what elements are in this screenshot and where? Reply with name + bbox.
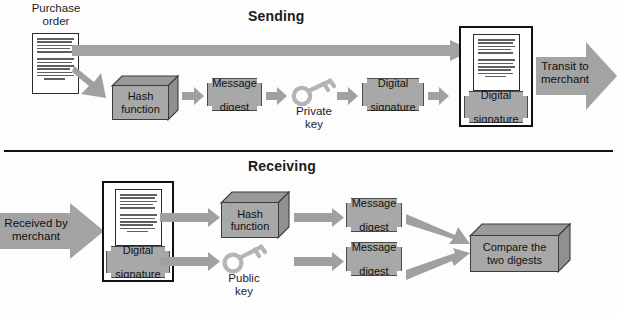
message-digest-line1: Message	[212, 77, 257, 89]
hash-function-label: Hash function	[112, 85, 169, 120]
transit-line1: Transit to	[539, 60, 591, 73]
hash-function-line2: function	[121, 103, 160, 115]
transit-label: Transit to merchant	[539, 60, 591, 86]
compare-digests-box: Compare the two digests	[470, 224, 570, 272]
digital-signature-line2: signature	[370, 101, 415, 113]
key-icon	[291, 77, 335, 107]
private-key-line1: Private	[278, 105, 350, 118]
arrow-right-icon	[337, 87, 358, 105]
message-digest-bottom-line2: digest	[352, 265, 397, 277]
digital-signature-plaque: Digital signature	[464, 91, 528, 123]
signed-doc-signature-line2: signature	[473, 113, 518, 125]
arrow-right-icon	[266, 87, 287, 105]
section-title-sending: Sending	[248, 8, 305, 24]
purchase-order-label-line2: order	[12, 15, 100, 28]
arrow-right-icon	[294, 252, 344, 271]
arrow-right-icon	[160, 252, 220, 271]
hash-function-r-line1: Hash	[237, 208, 263, 220]
message-digest-plaque-bottom: Message digest	[346, 242, 402, 276]
section-title-receiving: Receiving	[248, 158, 316, 174]
document-icon	[115, 189, 162, 246]
message-digest-plaque: Message digest	[207, 78, 262, 111]
message-digest-top-line1: Message	[352, 197, 397, 209]
private-key-label: Private key	[278, 105, 350, 130]
hash-function-line1: Hash	[128, 90, 154, 102]
hash-function-label: Hash function	[221, 202, 279, 238]
received-line1: Received by	[3, 217, 69, 230]
private-key-line2: key	[278, 118, 350, 131]
arrow-down-right-icon	[406, 214, 470, 246]
received-signature-line2: signature	[115, 268, 160, 280]
message-digest-plaque-top: Message digest	[346, 198, 402, 232]
arrow-right-icon	[428, 87, 449, 105]
purchase-order-label: Purchase order	[12, 2, 100, 27]
hash-function-box: Hash function	[221, 192, 289, 238]
digital-signature-plaque: Digital signature	[362, 78, 424, 111]
public-key-label: Public key	[208, 272, 280, 297]
message-digest-top-line2: digest	[352, 221, 397, 233]
hash-function-r-line2: function	[231, 220, 270, 232]
public-key-line2: key	[208, 285, 280, 298]
arrow-right-icon	[160, 208, 220, 227]
purchase-order-label-line1: Purchase	[12, 2, 100, 15]
digital-signature-line1: Digital	[370, 77, 415, 89]
compare-digests-label: Compare the two digests	[470, 235, 559, 272]
message-digest-line2: digest	[212, 101, 257, 113]
compare-line1: Compare the	[483, 241, 547, 253]
hash-function-box: Hash function	[112, 76, 178, 120]
arrow-right-icon	[72, 40, 472, 62]
section-divider	[4, 150, 613, 152]
arrow-right-icon	[294, 208, 344, 227]
transit-line2: merchant	[539, 73, 591, 86]
compare-line2: two digests	[487, 254, 542, 266]
arrow-diagonal-icon	[72, 62, 116, 104]
received-label: Received by merchant	[3, 217, 69, 243]
arrow-up-right-icon	[406, 248, 470, 280]
arrow-right-icon	[182, 87, 204, 105]
signed-document-package: Digital signature	[459, 26, 533, 127]
key-icon	[222, 243, 266, 274]
received-line2: merchant	[3, 230, 69, 243]
document-icon	[473, 34, 520, 91]
signature-flow-diagram: Sending Purchase order Hash function	[0, 0, 617, 314]
message-digest-bottom-line1: Message	[352, 241, 397, 253]
public-key-line1: Public	[208, 272, 280, 285]
